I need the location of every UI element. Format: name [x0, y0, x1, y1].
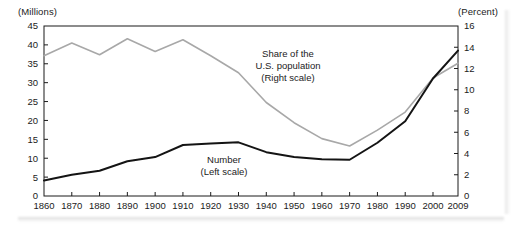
right-tick-label: 10	[464, 84, 475, 95]
left-tick-label: 20	[27, 115, 38, 126]
left-tick-label: 30	[27, 77, 38, 88]
right-tick-label: 6	[464, 127, 469, 138]
left-tick-label: 40	[27, 39, 38, 50]
x-tick-label: 2009	[447, 200, 468, 211]
number-annotation: Number (Left scale)	[201, 154, 248, 177]
right-axis-ticks: 0246810121416	[454, 20, 475, 201]
right-tick-label: 14	[464, 42, 475, 53]
x-tick-label: 1920	[200, 200, 221, 211]
x-tick-label: 1910	[172, 200, 193, 211]
right-tick-label: 2	[464, 169, 469, 180]
x-tick-label: 1990	[395, 200, 416, 211]
share-annotation: Share of the U.S. population (Right scal…	[256, 48, 321, 83]
share-annotation-line-1: Share of the	[262, 48, 314, 59]
number-annotation-line-2: (Left scale)	[201, 166, 248, 177]
share-annotation-line-3: (Right scale)	[261, 72, 314, 83]
x-tick-label: 1930	[228, 200, 249, 211]
chart-figure-card: (Millions) (Percent) 051015202530354045 …	[0, 0, 516, 228]
x-tick-label: 1900	[145, 200, 166, 211]
x-tick-label: 1860	[33, 200, 54, 211]
x-tick-label: 1980	[367, 200, 388, 211]
right-tick-label: 12	[464, 63, 475, 74]
number-annotation-line-1: Number	[207, 154, 241, 165]
chart-plot-area: 051015202530354045 0246810121416 1860187…	[0, 0, 516, 228]
x-tick-label: 1960	[311, 200, 332, 211]
right-tick-label: 8	[464, 105, 469, 116]
left-tick-label: 25	[27, 96, 38, 107]
left-tick-label: 35	[27, 58, 38, 69]
share-annotation-line-2: U.S. population	[256, 60, 321, 71]
x-tick-label: 1890	[117, 200, 138, 211]
left-tick-label: 5	[33, 172, 38, 183]
x-tick-label: 1970	[339, 200, 360, 211]
right-tick-label: 4	[464, 148, 469, 159]
x-tick-label: 1870	[61, 200, 82, 211]
right-tick-label: 16	[464, 20, 475, 31]
x-tick-label: 1880	[89, 200, 110, 211]
left-tick-label: 15	[27, 134, 38, 145]
x-tick-label: 1940	[256, 200, 277, 211]
x-tick-label: 2000	[422, 200, 443, 211]
left-tick-label: 10	[27, 153, 38, 164]
x-tick-label: 1950	[283, 200, 304, 211]
left-tick-label: 45	[27, 20, 38, 31]
